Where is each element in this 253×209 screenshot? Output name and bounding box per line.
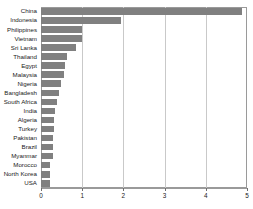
category-label-row: Egypt: [0, 61, 39, 70]
category-label: Bangladesh: [4, 90, 37, 96]
x-tick-label: 1: [80, 193, 84, 199]
bar: [41, 162, 50, 169]
category-label-row: North Korea: [0, 170, 39, 179]
category-label-row: Sri Lanka: [0, 43, 39, 52]
category-label-row: Morocco: [0, 161, 39, 170]
bar: [41, 126, 54, 133]
x-tick-mark: [206, 188, 207, 191]
category-label-row: Nigeria: [0, 79, 39, 88]
bar-row: [41, 152, 247, 161]
category-label: Malaysia: [13, 72, 37, 78]
bar-row: [41, 61, 247, 70]
bar-row: [41, 88, 247, 97]
bar: [41, 153, 53, 160]
category-label-row: USA: [0, 179, 39, 188]
bar-row: [41, 7, 247, 16]
x-tick-label: 4: [204, 193, 208, 199]
bar: [41, 53, 67, 60]
bar: [41, 80, 61, 87]
category-label-row: India: [0, 107, 39, 116]
category-label-row: Indonesia: [0, 16, 39, 25]
category-label-row: Turkey: [0, 125, 39, 134]
bars-layer: [41, 7, 247, 188]
x-tick-mark: [41, 188, 42, 191]
category-label: USA: [24, 180, 37, 186]
category-label-row: China: [0, 7, 39, 16]
category-label: Morocco: [13, 162, 37, 168]
bar-row: [41, 70, 247, 79]
bar: [41, 180, 50, 187]
category-label-row: Vietnam: [0, 34, 39, 43]
category-label-row: Malaysia: [0, 70, 39, 79]
category-label-row: Thailand: [0, 52, 39, 61]
bar: [41, 62, 65, 69]
category-label-row: Bangladesh: [0, 88, 39, 97]
category-label-row: South Africa: [0, 97, 39, 106]
category-label-row: Pakistan: [0, 134, 39, 143]
category-label: Egypt: [21, 63, 37, 69]
bar-row: [41, 25, 247, 34]
x-tick-mark: [82, 188, 83, 191]
category-label: India: [24, 108, 37, 114]
category-label: South Africa: [4, 99, 37, 105]
category-label: Indonesia: [10, 17, 37, 23]
category-label: Sri Lanka: [11, 45, 37, 51]
bar-row: [41, 16, 247, 25]
bar-row: [41, 34, 247, 43]
bar: [41, 71, 64, 78]
category-label: Philippines: [7, 27, 37, 33]
x-tick-label: 3: [163, 193, 167, 199]
bar: [41, 44, 76, 51]
x-tick-mark: [247, 188, 248, 191]
bar: [41, 17, 121, 24]
bar: [41, 8, 242, 15]
bar: [41, 99, 57, 106]
x-tick-label: 2: [122, 193, 126, 199]
bar-row: [41, 97, 247, 106]
bar-row: [41, 161, 247, 170]
bar: [41, 26, 82, 33]
bar: [41, 144, 53, 151]
bar-row: [41, 79, 247, 88]
category-label: Nigeria: [17, 81, 37, 87]
category-label-row: Philippines: [0, 25, 39, 34]
category-axis-labels: ChinaIndonesiaPhilippinesVietnamSri Lank…: [0, 7, 39, 188]
bar-row: [41, 116, 247, 125]
bar-row: [41, 179, 247, 188]
bar: [41, 35, 82, 42]
bar-row: [41, 52, 247, 61]
category-label-row: Algeria: [0, 116, 39, 125]
category-label: North Korea: [4, 171, 37, 177]
bar-row: [41, 134, 247, 143]
bar-row: [41, 143, 247, 152]
category-label: Algeria: [18, 117, 37, 123]
bar: [41, 135, 53, 142]
category-label: Turkey: [18, 126, 37, 132]
category-label-row: Brazil: [0, 143, 39, 152]
bar-row: [41, 107, 247, 116]
category-label: Myanmar: [11, 153, 37, 159]
x-tick-mark: [165, 188, 166, 191]
x-tick-label: 5: [245, 193, 249, 199]
category-label: Brazil: [22, 144, 37, 150]
bar-chart: ChinaIndonesiaPhilippinesVietnamSri Lank…: [0, 0, 253, 209]
category-label: Thailand: [13, 54, 37, 60]
bar-row: [41, 43, 247, 52]
x-tick-mark: [123, 188, 124, 191]
bar: [41, 117, 54, 124]
bar: [41, 171, 50, 178]
x-tick-label: 0: [39, 193, 43, 199]
category-label-row: Myanmar: [0, 152, 39, 161]
category-label: Pakistan: [13, 135, 37, 141]
bar: [41, 90, 59, 97]
bar-row: [41, 170, 247, 179]
x-axis-line: [41, 188, 247, 189]
category-label: China: [21, 8, 37, 14]
bar-row: [41, 125, 247, 134]
bar: [41, 108, 55, 115]
category-label: Vietnam: [14, 36, 37, 42]
